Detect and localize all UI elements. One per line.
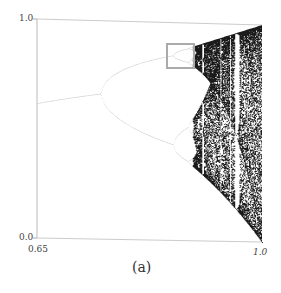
x-axis — [37, 238, 262, 242]
period-doubling-branches — [37, 47, 193, 166]
figure-caption: (a) — [132, 259, 151, 275]
y-tick-label-bottom: 0.0 — [19, 232, 33, 242]
x-tick-label-left: 0.65 — [28, 244, 48, 254]
y-tick-label-top: 1.0 — [19, 13, 33, 23]
top-border — [37, 19, 262, 25]
branch-points — [37, 47, 193, 166]
chaos-points — [193, 25, 263, 243]
x-tick-label-right: 1.0 — [253, 247, 267, 257]
chaotic-region — [193, 25, 263, 243]
zoom-highlight-box — [167, 44, 194, 68]
